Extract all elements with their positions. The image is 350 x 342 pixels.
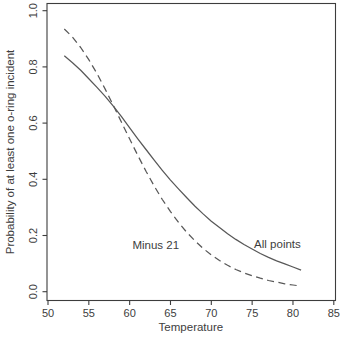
y-tick-label: 0.2 [27,228,39,243]
y-tick-label: 0.0 [27,284,39,299]
x-tick-label: 50 [42,307,54,319]
x-tick-label: 55 [83,307,95,319]
plot-box [47,4,336,301]
oring-probability-line-chart: 50556065707580850.00.20.40.60.81.0 Proba… [0,0,350,342]
y-tick-label: 1.0 [27,3,39,18]
chart-plot-area: 50556065707580850.00.20.40.60.81.0 [27,3,340,319]
x-tick-label: 60 [124,307,136,319]
y-tick-label: 0.6 [27,115,39,130]
x-tick-label: 70 [205,307,217,319]
annotation-all-points: All points [254,238,301,250]
x-tick-label: 65 [164,307,176,319]
x-tick-label: 80 [287,307,299,319]
y-axis-title: Probability of at least one o-ring incid… [4,49,16,254]
x-axis-title: Temperature [159,321,224,333]
x-tick-label: 75 [246,307,258,319]
annotation-minus-21: Minus 21 [132,239,179,251]
y-tick-label: 0.8 [27,59,39,74]
x-tick-label: 85 [328,307,340,319]
y-tick-label: 0.4 [27,172,39,187]
challenger-oring-figure: 50556065707580850.00.20.40.60.81.0 Proba… [0,0,350,342]
